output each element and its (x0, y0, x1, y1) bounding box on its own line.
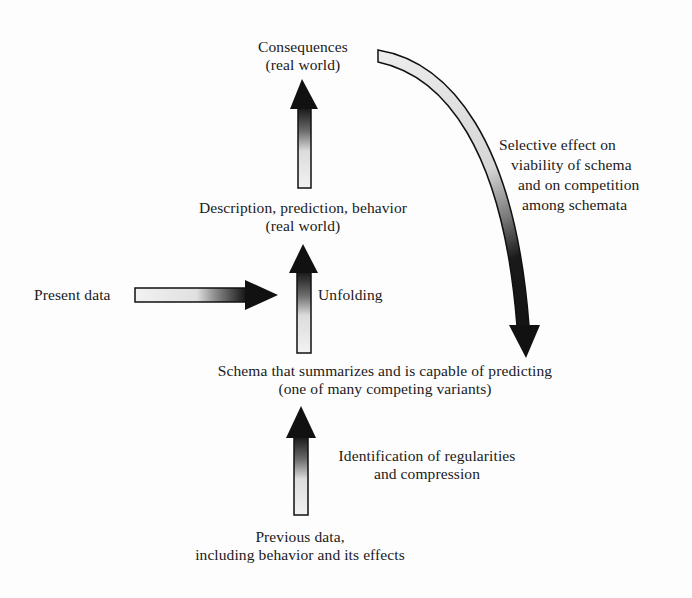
node-consequences-title: Consequences (248, 38, 358, 56)
node-schema-subtitle: (one of many competing variants) (180, 380, 590, 398)
arrow-description-to-consequences (290, 79, 318, 188)
arrow-unfolding (289, 244, 318, 353)
edge-label-selective-line1: Selective effect on (499, 135, 639, 155)
edge-label-unfolding: Unfolding (318, 286, 383, 304)
node-description-title: Description, prediction, behavior (178, 199, 428, 217)
edge-label-identification-line2: and compression (322, 465, 532, 483)
edge-label-selective-line4: among schemata (499, 195, 639, 215)
node-previous-data-subtitle: including behavior and its effects (160, 546, 440, 564)
edge-label-unfolding-text: Unfolding (318, 286, 383, 304)
node-previous-data: Previous data, including behavior and it… (160, 528, 440, 564)
node-schema-title: Schema that summarizes and is capable of… (180, 362, 590, 380)
node-description: Description, prediction, behavior (real … (178, 199, 428, 235)
edge-label-identification: Identification of regularities and compr… (322, 447, 532, 483)
node-present-data: Present data (34, 286, 111, 304)
edge-label-selective-effect: Selective effect on viability of schema … (499, 135, 639, 215)
edge-label-identification-line1: Identification of regularities (322, 447, 532, 465)
node-consequences-subtitle: (real world) (248, 56, 358, 74)
edge-label-selective-line2: viability of schema (499, 155, 639, 175)
node-consequences: Consequences (real world) (248, 38, 358, 74)
node-schema: Schema that summarizes and is capable of… (180, 362, 590, 398)
node-description-subtitle: (real world) (178, 217, 428, 235)
arrow-present-data (135, 280, 278, 310)
edge-label-selective-line3: and on competition (499, 175, 639, 195)
node-previous-data-title: Previous data, (160, 528, 440, 546)
arrow-identification (286, 406, 316, 515)
node-present-data-title: Present data (34, 286, 111, 304)
schema-diagram: Consequences (real world) Description, p… (0, 0, 692, 598)
